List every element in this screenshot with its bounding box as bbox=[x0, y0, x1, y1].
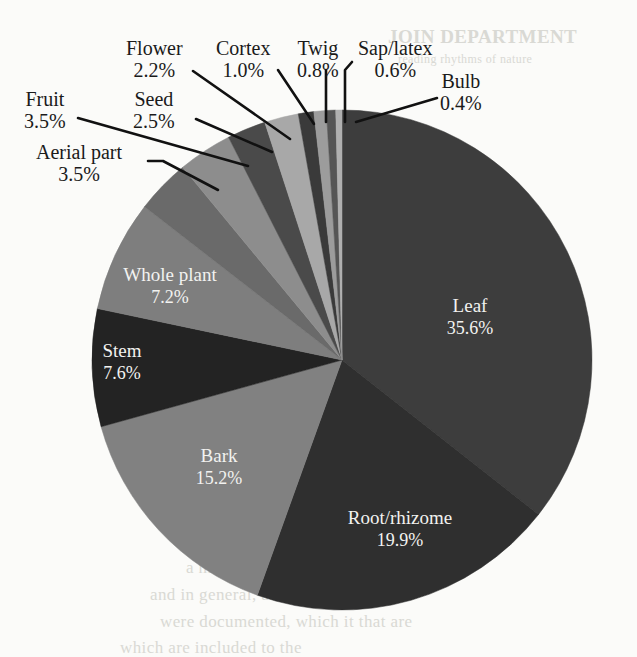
callout-name-fruit: Fruit bbox=[25, 88, 64, 110]
pie-chart-svg: Leaf35.6%Root/rhizome19.9%Bark15.2%Stem7… bbox=[0, 0, 637, 657]
callout-name-bulb: Bulb bbox=[441, 70, 480, 92]
callout-name-sap-latex: Sap/latex bbox=[358, 37, 432, 59]
callout-name-flower: Flower bbox=[126, 37, 183, 59]
callout-name-cortex: Cortex bbox=[216, 37, 270, 59]
callout-label-flower: Flower2.2% bbox=[126, 37, 183, 82]
slice-label-name-leaf: Leaf bbox=[453, 295, 488, 316]
callout-percent-seed: 2.5% bbox=[133, 110, 175, 132]
callout-label-seed: Seed2.5% bbox=[133, 88, 175, 133]
callout-percent-sap-latex: 0.6% bbox=[358, 59, 432, 81]
callout-percent-fruit: 3.5% bbox=[24, 110, 66, 132]
callout-name-aerial-part: Aerial part bbox=[36, 141, 122, 163]
callout-percent-aerial-part: 3.5% bbox=[36, 163, 122, 185]
callout-label-fruit: Fruit3.5% bbox=[24, 88, 66, 133]
callout-name-seed: Seed bbox=[134, 88, 173, 110]
callout-label-bulb: Bulb0.4% bbox=[440, 70, 482, 115]
slice-label-percent-whole-plant: 7.2% bbox=[151, 287, 189, 307]
callout-percent-twig: 0.8% bbox=[297, 59, 339, 81]
callout-percent-cortex: 1.0% bbox=[216, 59, 270, 81]
callout-percent-flower: 2.2% bbox=[126, 59, 183, 81]
pie-chart-figure: JOIN DEPARTMENT reading rhythms of natur… bbox=[0, 0, 637, 657]
slice-label-percent-root-rhizome: 19.9% bbox=[377, 530, 424, 550]
slice-label-name-stem: Stem bbox=[102, 340, 141, 361]
pie-slice-group bbox=[92, 110, 592, 610]
callout-percent-bulb: 0.4% bbox=[440, 92, 482, 114]
slice-label-name-whole-plant: Whole plant bbox=[123, 264, 217, 285]
callout-label-cortex: Cortex1.0% bbox=[216, 37, 270, 82]
callout-label-twig: Twig0.8% bbox=[297, 37, 339, 82]
callout-name-twig: Twig bbox=[297, 37, 338, 59]
slice-label-name-bark: Bark bbox=[201, 445, 238, 466]
slice-label-name-root-rhizome: Root/rhizome bbox=[348, 507, 452, 528]
slice-label-percent-leaf: 35.6% bbox=[447, 318, 494, 338]
callout-label-sap-latex: Sap/latex0.6% bbox=[358, 37, 432, 82]
slice-label-percent-bark: 15.2% bbox=[196, 468, 243, 488]
slice-label-percent-stem: 7.6% bbox=[103, 363, 141, 383]
callout-label-aerial-part: Aerial part3.5% bbox=[36, 141, 122, 186]
